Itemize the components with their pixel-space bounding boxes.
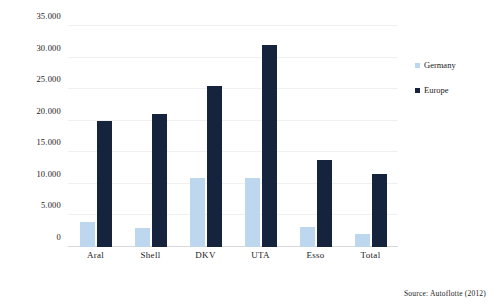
bar-shell-germany: [135, 228, 150, 247]
legend-item-label: Europe: [424, 85, 449, 95]
bar-total-germany: [355, 234, 370, 247]
bar-uta-germany: [245, 178, 260, 247]
bar-groups: [68, 26, 398, 247]
y-axis-tick-label: 20.000: [36, 106, 61, 116]
bar-group: [233, 26, 288, 247]
x-axis-tick-label: Total: [343, 250, 398, 260]
legend-swatch-icon: [415, 88, 420, 93]
plot-area: 05.00010.00015.00020.00025.00030.00035.0…: [68, 26, 398, 247]
legend-swatch-icon: [415, 63, 420, 68]
x-axis-tick-label: Shell: [123, 250, 178, 260]
bar-aral-europe: [97, 121, 112, 247]
bar-group: [123, 26, 178, 247]
legend-item-germany[interactable]: Germany: [415, 60, 456, 70]
y-axis-tick-label: 0: [57, 232, 61, 242]
bar-group: [343, 26, 398, 247]
bar-chart: 05.00010.00015.00020.00025.00030.00035.0…: [0, 0, 494, 307]
y-axis-tick-label: 10.000: [36, 169, 61, 179]
x-axis-tick-label: Esso: [288, 250, 343, 260]
y-axis-tick-label: 15.000: [36, 137, 61, 147]
bar-uta-europe: [262, 45, 277, 247]
y-axis-tick-label: 5.000: [41, 200, 61, 210]
bar-aral-germany: [80, 222, 95, 247]
bar-esso-germany: [300, 227, 315, 247]
y-axis-tick-label: 25.000: [36, 74, 61, 84]
source-note: Source: Autoflotte (2012): [404, 289, 486, 298]
chart-legend: GermanyEurope: [415, 60, 456, 95]
bar-dkv-europe: [207, 86, 222, 247]
bar-group: [288, 26, 343, 247]
x-axis-tick-label: UTA: [233, 250, 288, 260]
y-axis-tick-label: 35.000: [36, 11, 61, 21]
x-axis-tick-label: DKV: [178, 250, 233, 260]
bar-group: [178, 26, 233, 247]
bar-esso-europe: [317, 160, 332, 247]
y-axis-tick-label: 30.000: [36, 43, 61, 53]
x-axis-tick-label: Aral: [68, 250, 123, 260]
legend-item-europe[interactable]: Europe: [415, 85, 456, 95]
legend-item-label: Germany: [424, 60, 456, 70]
bar-shell-europe: [152, 114, 167, 247]
x-axis-tick-labels: AralShellDKVUTAEssoTotal: [68, 250, 398, 260]
bar-total-europe: [372, 174, 387, 247]
bar-group: [68, 26, 123, 247]
bar-dkv-germany: [190, 178, 205, 247]
